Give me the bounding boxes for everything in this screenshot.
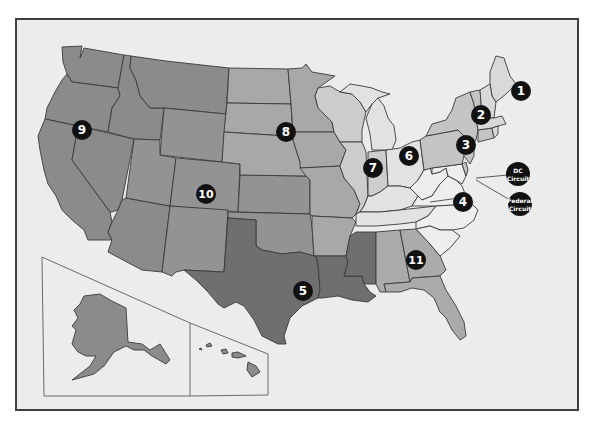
marker-circuit-3[interactable]: 3 (456, 135, 476, 155)
state-north-dakota[interactable] (227, 68, 291, 104)
state-new-mexico[interactable] (162, 206, 228, 276)
marker-circuit-1[interactable]: 1 (511, 81, 531, 101)
dc-leader-line (476, 175, 508, 178)
marker-circuit-7[interactable]: 7 (363, 158, 383, 178)
state-alaska[interactable] (72, 294, 170, 380)
svg-text:4: 4 (459, 195, 467, 209)
svg-text:10: 10 (198, 188, 214, 201)
svg-text:Federal: Federal (507, 197, 532, 204)
svg-text:11: 11 (408, 254, 423, 267)
marker-federal-circuit[interactable]: Federal Circuit (507, 192, 532, 216)
svg-text:5: 5 (299, 284, 307, 298)
hawaii-inset-frame (190, 323, 268, 396)
marker-circuit-11[interactable]: 11 (406, 250, 426, 270)
marker-circuit-2[interactable]: 2 (471, 105, 491, 125)
marker-circuit-9[interactable]: 9 (72, 120, 92, 140)
svg-text:7: 7 (369, 161, 377, 175)
state-hawaii[interactable] (199, 343, 260, 377)
state-florida[interactable] (384, 276, 466, 340)
marker-circuit-5[interactable]: 5 (293, 281, 313, 301)
state-kansas[interactable] (238, 175, 310, 214)
svg-text:Circuit: Circuit (509, 205, 531, 212)
svg-text:DC: DC (513, 167, 523, 174)
svg-text:9: 9 (78, 123, 86, 137)
svg-text:Circuit: Circuit (507, 175, 529, 182)
us-circuit-map: 1 2 3 4 5 6 7 8 9 10 11 DC Circ (0, 0, 591, 430)
state-mississippi[interactable] (344, 232, 376, 284)
svg-text:2: 2 (477, 108, 485, 122)
marker-circuit-6[interactable]: 6 (399, 146, 419, 166)
svg-text:8: 8 (282, 125, 290, 139)
marker-dc-circuit[interactable]: DC Circuit (506, 162, 530, 186)
svg-text:1: 1 (517, 84, 525, 98)
svg-text:6: 6 (405, 149, 413, 163)
marker-circuit-10[interactable]: 10 (196, 184, 216, 204)
circuit-1-region (476, 56, 516, 138)
state-wyoming[interactable] (160, 108, 226, 162)
federal-leader-line (476, 180, 510, 200)
marker-circuit-4[interactable]: 4 (453, 192, 473, 212)
marker-circuit-8[interactable]: 8 (276, 122, 296, 142)
svg-text:3: 3 (462, 138, 470, 152)
